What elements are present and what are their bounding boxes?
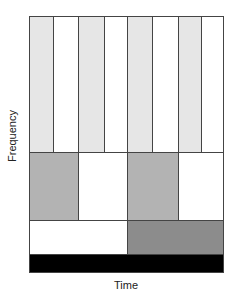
row-2-cell — [178, 152, 224, 221]
y-axis-label: Frequency — [6, 96, 18, 176]
row-1-highest-frequency-cell — [29, 16, 54, 153]
row-1-highest-frequency-cell — [152, 16, 179, 153]
row-2-cell — [127, 152, 179, 221]
x-axis-label: Time — [29, 279, 223, 291]
tiling-plot — [29, 16, 223, 272]
row-1-highest-frequency-cell — [201, 16, 224, 153]
row-3-cell — [127, 220, 224, 255]
row-1-highest-frequency-cell — [104, 16, 128, 153]
row-1-highest-frequency-cell — [78, 16, 105, 153]
row-2-cell — [29, 152, 79, 221]
row-1-highest-frequency-cell — [53, 16, 79, 153]
row-4-lowest-frequency-cell — [29, 254, 224, 273]
row-1-highest-frequency-cell — [127, 16, 153, 153]
row-3-cell — [29, 220, 128, 255]
row-1-highest-frequency-cell — [178, 16, 202, 153]
row-2-cell — [78, 152, 128, 221]
